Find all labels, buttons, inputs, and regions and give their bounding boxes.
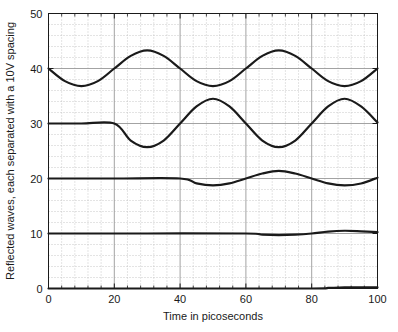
x-tick-label: 100 (368, 293, 386, 305)
wave-line-wave-5-offset-0 (49, 287, 378, 288)
wave-line-wave-2-offset-30 (49, 99, 378, 147)
x-tick-label: 60 (240, 293, 252, 305)
chart-figure: 020406080100 01020304050 Time in picosec… (0, 0, 398, 332)
y-axis-title: Reflected waves, each separated with a 1… (4, 22, 16, 280)
y-tick-label: 0 (36, 283, 42, 295)
x-tick-labels: 020406080100 (45, 293, 386, 305)
plot-frame (49, 14, 378, 289)
plot-canvas: 020406080100 01020304050 Time in picosec… (0, 0, 398, 332)
y-tick-label: 30 (30, 118, 42, 130)
x-tick-label: 0 (45, 293, 51, 305)
y-tick-labels: 01020304050 (30, 8, 42, 295)
x-tick-label: 40 (174, 293, 186, 305)
wave-line-wave-4-offset-10 (49, 231, 378, 235)
major-gridlines (49, 14, 378, 289)
x-tick-label: 20 (108, 293, 120, 305)
tick-marks (49, 14, 378, 289)
x-axis-title: Time in picoseconds (163, 310, 263, 322)
minor-gridlines (49, 14, 378, 289)
y-tick-label: 40 (30, 63, 42, 75)
y-tick-label: 50 (30, 8, 42, 20)
y-tick-label: 10 (30, 228, 42, 240)
wave-curves (49, 50, 378, 288)
x-tick-label: 80 (306, 293, 318, 305)
y-tick-label: 20 (30, 173, 42, 185)
